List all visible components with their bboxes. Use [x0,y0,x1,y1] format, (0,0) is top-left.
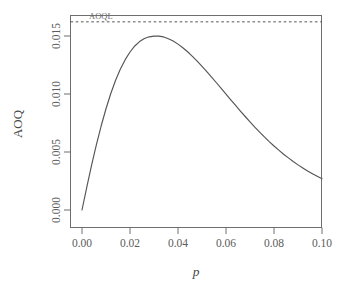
x-tick-label: 0.04 [168,237,188,249]
x-tick-label: 0.10 [312,237,332,249]
plot-frame [71,16,322,228]
x-tick-label: 0.02 [120,237,140,249]
y-axis-ticks [64,36,71,210]
x-tick-label: 0.06 [216,237,236,249]
chart-canvas: AOQL 0.0000.0050.0100.015 0.000.020.040.… [0,0,346,287]
y-tick-label: 0.000 [50,197,62,223]
x-axis-title: p [192,264,200,279]
y-tick-label: 0.005 [50,139,62,165]
x-axis-tick-labels: 0.000.020.040.060.080.10 [72,237,332,249]
y-tick-label: 0.015 [50,23,62,49]
x-axis-ticks [82,228,322,235]
x-tick-label: 0.00 [72,237,92,249]
y-axis-tick-labels: 0.0000.0050.0100.015 [50,23,62,223]
aoq-curve [82,36,322,210]
x-tick-label: 0.08 [264,237,284,249]
aoq-chart-figure: AOQL 0.0000.0050.0100.015 0.000.020.040.… [0,0,346,287]
aoql-label: AOQL [89,11,113,21]
y-axis-title: AOQ [10,109,25,138]
y-tick-label: 0.010 [50,81,62,107]
